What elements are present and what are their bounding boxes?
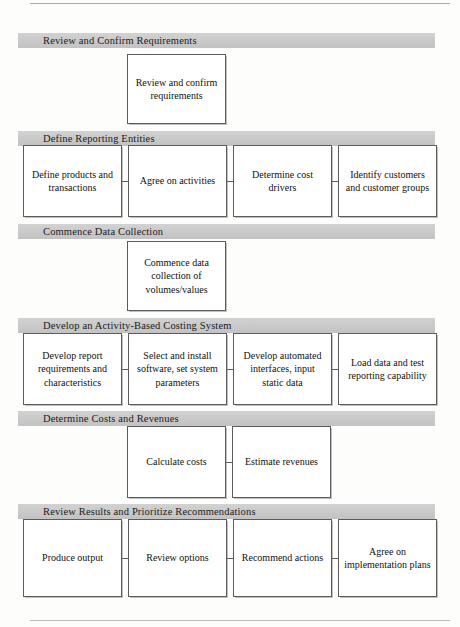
process-diagram-page: Review and Confirm RequirementsReview an…: [0, 0, 460, 627]
process-box-label: Calculate costs: [141, 455, 211, 469]
section-header-band: Commence Data Collection: [18, 224, 435, 239]
process-box[interactable]: Produce output: [23, 519, 122, 597]
process-box-label: Identify customers and customer groups: [339, 168, 436, 195]
process-box[interactable]: Agree on activities: [128, 145, 227, 217]
section-header-label: Commence Data Collection: [43, 224, 163, 239]
process-box[interactable]: Develop automated interfaces, input stat…: [233, 333, 332, 405]
process-box[interactable]: Agree on implementation plans: [338, 519, 437, 597]
section-header-band: Develop an Activity-Based Costing System: [18, 318, 435, 333]
section-header-label: Determine Costs and Revenues: [43, 411, 179, 426]
process-box-label: Define products and transactions: [24, 168, 121, 195]
section-header-label: Review and Confirm Requirements: [43, 33, 197, 48]
process-box[interactable]: Commence data collection of volumes/valu…: [127, 241, 226, 311]
process-box[interactable]: Calculate costs: [127, 426, 226, 498]
process-box-label: Agree on implementation plans: [339, 545, 436, 572]
process-box[interactable]: Review and confirm requirements: [127, 54, 226, 124]
section-header-label: Define Reporting Entities: [43, 131, 155, 146]
process-box[interactable]: Define products and transactions: [23, 145, 122, 217]
process-box-label: Agree on activities: [135, 174, 221, 188]
process-box-label: Produce output: [37, 551, 108, 565]
section-header-label: Review Results and Prioritize Recommenda…: [43, 504, 256, 519]
process-box-label: Recommend actions: [237, 551, 328, 565]
process-box[interactable]: Recommend actions: [233, 519, 332, 597]
process-box[interactable]: Review options: [128, 519, 227, 597]
process-box[interactable]: Select and install software, set system …: [128, 333, 227, 405]
section-header-band: Review and Confirm Requirements: [18, 33, 435, 48]
section-header-band: Define Reporting Entities: [18, 131, 435, 146]
process-box-label: Estimate revenues: [240, 455, 323, 469]
process-box[interactable]: Identify customers and customer groups: [338, 145, 437, 217]
process-box[interactable]: Determine cost drivers: [233, 145, 332, 217]
page-bottom-edge-line: [30, 620, 450, 621]
process-box-label: Develop report requirements and characte…: [24, 349, 121, 390]
process-box[interactable]: Estimate revenues: [232, 426, 331, 498]
section-header-label: Develop an Activity-Based Costing System: [43, 318, 232, 333]
section-header-band: Determine Costs and Revenues: [18, 411, 435, 426]
page-top-edge-line: [30, 3, 450, 4]
process-box-label: Select and install software, set system …: [129, 349, 226, 390]
process-box-label: Determine cost drivers: [234, 168, 331, 195]
process-box-label: Review options: [141, 551, 214, 565]
process-box-label: Develop automated interfaces, input stat…: [234, 349, 331, 390]
process-box[interactable]: Load data and test reporting capability: [338, 333, 437, 405]
process-box[interactable]: Develop report requirements and characte…: [23, 333, 122, 405]
section-header-band: Review Results and Prioritize Recommenda…: [18, 504, 435, 519]
process-box-label: Commence data collection of volumes/valu…: [128, 256, 225, 297]
process-box-label: Review and confirm requirements: [128, 76, 225, 103]
process-box-label: Load data and test reporting capability: [339, 356, 436, 383]
